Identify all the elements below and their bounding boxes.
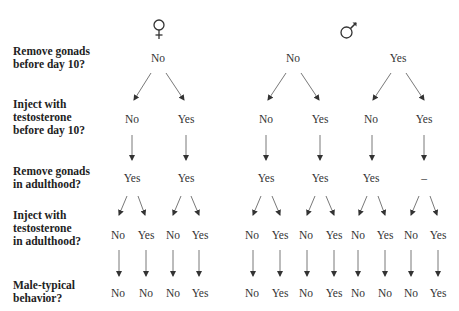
question-line: Inject with <box>13 209 81 222</box>
node-l2: No <box>259 113 273 125</box>
node-l4: Yes <box>192 229 209 241</box>
node-l2: Yes <box>312 113 329 125</box>
node-l4: No <box>351 229 365 241</box>
node-l4: Yes <box>430 229 447 241</box>
node-outcome: No <box>299 287 313 299</box>
male-symbol-icon <box>339 20 359 40</box>
node-l3: Yes <box>363 172 380 184</box>
question-line: Inject with <box>13 98 85 111</box>
node-outcome: No <box>404 287 418 299</box>
node-l3: Yes <box>124 172 141 184</box>
node-outcome: Yes <box>272 287 289 299</box>
node-l4: No <box>404 229 418 241</box>
node-outcome: No <box>139 287 153 299</box>
node-l1: Yes <box>390 52 407 64</box>
node-l2: Yes <box>416 113 433 125</box>
node-l2: No <box>364 113 378 125</box>
node-l1: No <box>151 52 165 64</box>
node-l2: No <box>125 113 139 125</box>
node-l2: Yes <box>178 113 195 125</box>
node-outcome: No <box>245 287 259 299</box>
node-outcome: No <box>166 287 180 299</box>
node-l4: Yes <box>326 229 343 241</box>
question-line: Male-typical <box>13 279 75 292</box>
node-l4: Yes <box>272 229 289 241</box>
node-outcome: Yes <box>192 287 209 299</box>
question-line: testosterone <box>13 111 85 124</box>
question-line: testosterone <box>13 222 81 235</box>
question-inject-early: Inject with testosterone before day 10? <box>13 98 85 137</box>
female-symbol-icon <box>151 18 167 40</box>
node-l3: Yes <box>178 172 195 184</box>
question-remove-gonads-adult: Remove gonads in adulthood? <box>13 165 90 191</box>
node-l3: – <box>421 172 427 184</box>
question-line: Remove gonads <box>13 45 90 58</box>
node-outcome: Yes <box>430 287 447 299</box>
node-l4: Yes <box>377 229 394 241</box>
node-l3: Yes <box>258 172 275 184</box>
node-l3: Yes <box>312 172 329 184</box>
question-line: behavior? <box>13 292 75 305</box>
question-line: Remove gonads <box>13 165 90 178</box>
question-line: in adulthood? <box>13 235 81 248</box>
question-male-behavior: Male-typical behavior? <box>13 279 75 305</box>
node-l4: No <box>245 229 259 241</box>
node-l4: Yes <box>138 229 155 241</box>
node-l1: No <box>286 52 300 64</box>
node-outcome: No <box>351 287 365 299</box>
node-outcome: No <box>111 287 125 299</box>
node-outcome: Yes <box>326 287 343 299</box>
node-l4: No <box>166 229 180 241</box>
question-remove-gonads-early: Remove gonads before day 10? <box>13 45 90 71</box>
node-outcome: No <box>378 287 392 299</box>
node-l4: No <box>299 229 313 241</box>
question-line: before day 10? <box>13 58 90 71</box>
question-line: before day 10? <box>13 124 85 137</box>
question-inject-adult: Inject with testosterone in adulthood? <box>13 209 81 248</box>
node-l4: No <box>111 229 125 241</box>
question-line: in adulthood? <box>13 178 90 191</box>
